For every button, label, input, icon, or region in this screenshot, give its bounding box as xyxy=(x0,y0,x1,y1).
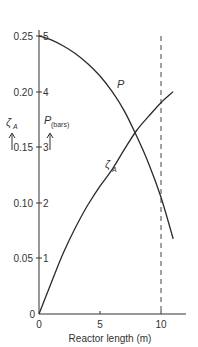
x-tick-10: 10 xyxy=(155,319,167,330)
y-left-tick-0.10: 0.10 xyxy=(14,198,34,209)
x-axis-title: Reactor length (m) xyxy=(69,333,152,344)
y-right-tick-1: 1 xyxy=(43,253,49,264)
y-right-tick-2: 2 xyxy=(43,198,49,209)
y-right-tick-5: 5 xyxy=(43,31,49,42)
y-left-tick-0.05: 0.05 xyxy=(14,253,34,264)
y-right-tick-4: 4 xyxy=(43,87,49,98)
y-left-tick-0.25: 0.25 xyxy=(14,31,34,42)
y-right-tick-3: 3 xyxy=(43,142,49,153)
chart-canvas: 0.25 0.20 0.15 0.10 0.05 0 5 4 3 2 1 0 5… xyxy=(0,0,198,347)
svg-text:ζ: ζ xyxy=(105,158,111,171)
y-right-unit: (bars) xyxy=(51,121,69,129)
y-left-tick-0.20: 0.20 xyxy=(14,87,34,98)
curve-label-p: P xyxy=(117,78,125,90)
y-left-tick-0: 0 xyxy=(29,309,35,320)
svg-text:A: A xyxy=(111,166,117,173)
y-left-tick-0.15: 0.15 xyxy=(14,142,34,153)
y-left-symbol: ζ xyxy=(6,116,12,129)
y-left-subscript: A xyxy=(12,123,18,130)
x-tick-5: 5 xyxy=(97,319,103,330)
x-tick-0: 0 xyxy=(36,319,42,330)
curve-p xyxy=(39,36,173,239)
